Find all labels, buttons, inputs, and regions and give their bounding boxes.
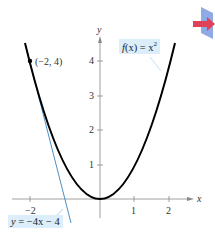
x-axis-arrow [187, 197, 194, 201]
x-tick-label: 2 [166, 205, 171, 216]
y-axis-label: y [96, 24, 102, 35]
tangent-body: = −4x − 4 [16, 216, 60, 227]
tangent-point [28, 59, 32, 63]
y-tick-label: 3 [89, 90, 94, 101]
chart-area: x y −2 1 2 1 2 3 4 (−2, 4) [0, 0, 215, 241]
x-tick-label: 1 [131, 205, 136, 216]
function-label-leader [150, 57, 161, 71]
y-tick-label: 4 [89, 55, 94, 66]
function-label: f(x) = x2 [119, 39, 160, 54]
y-axis-arrow [98, 36, 102, 43]
x-axis-label: x [196, 193, 202, 204]
y-tick-label: 1 [89, 159, 94, 170]
y-tick-label: 2 [89, 124, 94, 135]
function-exponent: 2 [154, 40, 158, 48]
tangent-label: y = −4x − 4 [8, 215, 63, 228]
function-body: (x) = x [125, 42, 154, 53]
point-label: (−2, 4) [35, 56, 62, 68]
next-arrow-icon[interactable] [193, 5, 215, 41]
